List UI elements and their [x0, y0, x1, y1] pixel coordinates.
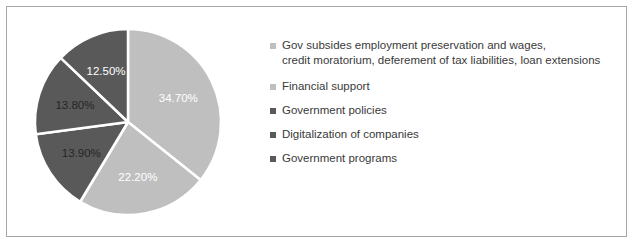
- legend-label-government-programs: Government programs: [282, 151, 397, 166]
- legend-label-gov-subsides: Gov subsides employment preservation and…: [282, 38, 600, 68]
- legend-swatch-gov-subsides-icon: [270, 43, 276, 49]
- pie-slice-value-label: 13.80%: [55, 99, 94, 111]
- pie-slice-value-label: 13.90%: [62, 147, 101, 159]
- legend-item-government-programs[interactable]: Government programs: [270, 151, 620, 166]
- pie-slices-group: [35, 29, 221, 215]
- pie-chart-figure: 34.70%22.20%13.90%13.80%12.50% Gov subsi…: [0, 0, 635, 244]
- legend-swatch-government-programs-icon: [270, 156, 276, 162]
- legend-item-gov-subsides[interactable]: Gov subsides employment preservation and…: [270, 38, 620, 68]
- legend-label-government-policies: Government policies: [282, 103, 387, 118]
- pie-slice-value-label: 12.50%: [87, 65, 126, 77]
- chart-legend: Gov subsides employment preservation and…: [270, 38, 620, 175]
- legend-item-government-policies[interactable]: Government policies: [270, 103, 620, 118]
- legend-label-financial-support: Financial support: [282, 79, 370, 94]
- legend-swatch-government-policies-icon: [270, 108, 276, 114]
- pie-slice-value-label: 22.20%: [118, 171, 157, 183]
- legend-item-digitalization[interactable]: Digitalization of companies: [270, 127, 620, 142]
- legend-label-digitalization: Digitalization of companies: [282, 127, 419, 142]
- pie-chart-plot-area: 34.70%22.20%13.90%13.80%12.50%: [28, 22, 233, 222]
- pie-svg: 34.70%22.20%13.90%13.80%12.50%: [28, 22, 233, 222]
- legend-item-financial-support[interactable]: Financial support: [270, 79, 620, 94]
- pie-slice-value-label: 34.70%: [159, 92, 198, 104]
- legend-swatch-financial-support-icon: [270, 84, 276, 90]
- legend-swatch-digitalization-icon: [270, 132, 276, 138]
